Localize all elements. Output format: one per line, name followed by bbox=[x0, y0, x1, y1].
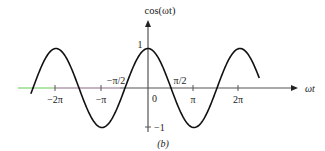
y-axis-arrow-icon bbox=[145, 20, 151, 27]
x-axis-arrow-icon bbox=[291, 85, 298, 91]
y-axis-label: cos(ωt) bbox=[145, 5, 176, 17]
annotation-minus-pi-over-2: −π/2 bbox=[107, 75, 125, 86]
x-tick-minus-pi: −π bbox=[96, 94, 107, 105]
y-tick-minus-1: −1 bbox=[154, 122, 165, 133]
x-tick-minus-2pi: −2π bbox=[47, 94, 63, 105]
annotation-pi-over-2: π/2 bbox=[174, 75, 187, 86]
x-axis-label: ωt bbox=[305, 83, 315, 94]
origin-label: 0 bbox=[152, 93, 157, 104]
caption: (b) bbox=[157, 138, 169, 150]
y-tick-1: 1 bbox=[138, 39, 143, 50]
cosine-figure: cos(ωt) ωt 1 −1 −2π −π π 2π 0 −π/2 π/2 (… bbox=[0, 0, 325, 151]
x-tick-pi: π bbox=[190, 94, 195, 105]
x-tick-2pi: 2π bbox=[233, 94, 243, 105]
